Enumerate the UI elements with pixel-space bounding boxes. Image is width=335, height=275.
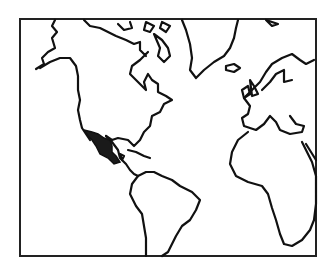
map-frame [20, 19, 316, 256]
british-isles-outline [242, 80, 258, 98]
africa-outline [230, 132, 316, 246]
greenland-outline [182, 20, 238, 78]
caribbean-islands-outline [120, 150, 150, 160]
world-map [0, 0, 335, 275]
europe-outline [242, 20, 314, 134]
south-america-outline [130, 172, 200, 256]
iceland-outline [226, 64, 240, 72]
north-america-outline [36, 20, 172, 146]
